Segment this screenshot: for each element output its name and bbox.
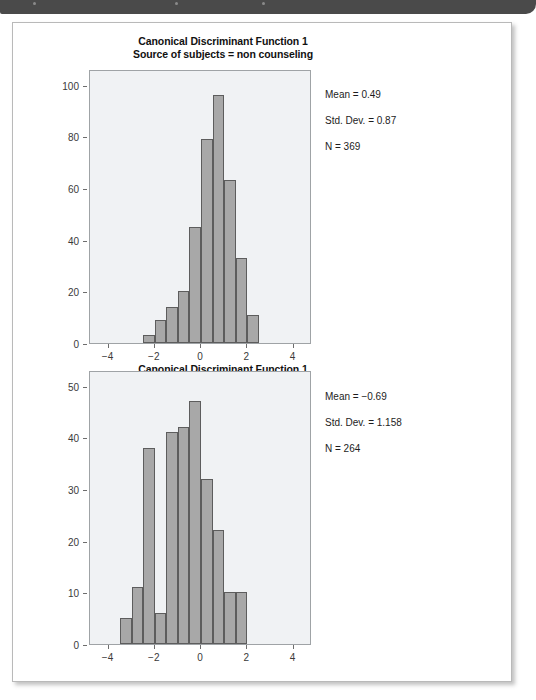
histogram-bar — [247, 315, 259, 343]
x-axis-tick-mark — [154, 344, 155, 348]
histogram-bar — [189, 401, 201, 644]
y-axis-tick-mark — [83, 241, 87, 242]
y-axis-2: 01020304050 — [33, 371, 79, 645]
stats-stddev-2: Std. Dev. = 1.158 — [325, 416, 402, 429]
histogram-bar — [132, 587, 144, 644]
y-axis-tick-mark — [83, 86, 87, 87]
y-axis-tick-label: 50 — [68, 381, 79, 392]
stats-annotation-2: Mean = −0.69 Std. Dev. = 1.158 N = 264 — [325, 377, 402, 468]
y-axis-tick-mark — [83, 189, 87, 190]
y-axis-tick-mark — [83, 542, 87, 543]
histogram-bar — [236, 592, 248, 644]
y-axis-tick-mark — [83, 387, 87, 388]
stats-stddev-1: Std. Dev. = 0.87 — [325, 114, 396, 127]
y-axis-tick-label: 30 — [68, 484, 79, 495]
histogram-bar — [155, 613, 167, 644]
histogram-bar — [178, 427, 190, 644]
stats-mean-2: Mean = −0.69 — [325, 390, 402, 403]
histogram-bar — [166, 432, 178, 644]
header-dot-1 — [33, 2, 36, 5]
x-axis-tick-label: 0 — [197, 652, 203, 663]
y-axis-tick-label: 100 — [62, 80, 79, 91]
histogram-bar — [155, 320, 167, 343]
y-axis-tick-label: 20 — [68, 536, 79, 547]
y-axis-tick-label: 10 — [68, 588, 79, 599]
histogram-panel-counseling: Canonical Discriminant Function 1 Source… — [13, 353, 513, 683]
x-axis-tick-mark — [246, 645, 247, 649]
stats-mean-1: Mean = 0.49 — [325, 88, 396, 101]
histogram-bar — [213, 95, 225, 343]
y-axis-tick-label: 0 — [73, 339, 79, 350]
y-axis-tick-label: 60 — [68, 183, 79, 194]
bars-group-2 — [90, 372, 310, 644]
x-axis-tick-mark — [108, 645, 109, 649]
histogram-bar — [224, 592, 236, 644]
histogram-bar — [236, 258, 248, 343]
x-axis-tick-mark — [246, 344, 247, 348]
y-axis-tick-label: 20 — [68, 287, 79, 298]
x-axis-tick-label: 4 — [290, 652, 296, 663]
bars-group-1 — [90, 71, 310, 343]
plot-area-2 — [89, 371, 311, 645]
x-axis-tick-label: −4 — [102, 652, 113, 663]
y-axis-tick-label: 80 — [68, 132, 79, 143]
y-axis-tick-mark — [83, 645, 87, 646]
x-axis-tick-label: −2 — [148, 652, 159, 663]
y-axis-1: 020406080100 — [33, 70, 79, 344]
x-axis-tick-mark — [108, 344, 109, 348]
x-axis-tick-mark — [293, 645, 294, 649]
y-axis-tick-label: 40 — [68, 235, 79, 246]
histogram-bar — [166, 307, 178, 343]
histogram-panel-non-counseling: Canonical Discriminant Function 1 Source… — [13, 23, 513, 353]
y-axis-tick-mark — [83, 292, 87, 293]
y-axis-tick-mark — [83, 137, 87, 138]
stats-n-1: N = 369 — [325, 140, 396, 153]
y-axis-tick-mark — [83, 438, 87, 439]
header-dot-3 — [262, 2, 265, 5]
x-axis-tick-mark — [200, 344, 201, 348]
histogram-bar — [201, 139, 213, 343]
y-axis-tick-label: 40 — [68, 433, 79, 444]
histogram-bar — [189, 227, 201, 343]
histogram-bar — [224, 180, 236, 343]
y-axis-tick-mark — [83, 593, 87, 594]
histogram-bar — [201, 479, 213, 644]
plot-area-1 — [89, 70, 311, 344]
x-axis-tick-label: 2 — [243, 652, 249, 663]
histogram-bar — [143, 335, 155, 343]
x-axis-tick-mark — [154, 645, 155, 649]
figure-card: Canonical Discriminant Function 1 Source… — [12, 22, 512, 682]
histogram-bar — [213, 530, 225, 644]
x-axis-tick-mark — [200, 645, 201, 649]
y-axis-tick-mark — [83, 344, 87, 345]
histogram-bar — [178, 291, 190, 343]
x-axis-tick-mark — [293, 344, 294, 348]
header-dot-2 — [175, 2, 178, 5]
stats-n-2: N = 264 — [325, 442, 402, 455]
histogram-bar — [120, 618, 132, 644]
chart-title-1-line1: Canonical Discriminant Function 1 — [73, 35, 373, 48]
page-header-bar — [0, 0, 536, 14]
chart-title-1-line2: Source of subjects = non counseling — [73, 48, 373, 61]
y-axis-tick-label: 0 — [73, 640, 79, 651]
histogram-bar — [143, 448, 155, 644]
y-axis-tick-mark — [83, 490, 87, 491]
chart-title-1: Canonical Discriminant Function 1 Source… — [73, 35, 373, 61]
stats-annotation-1: Mean = 0.49 Std. Dev. = 0.87 N = 369 — [325, 75, 396, 166]
